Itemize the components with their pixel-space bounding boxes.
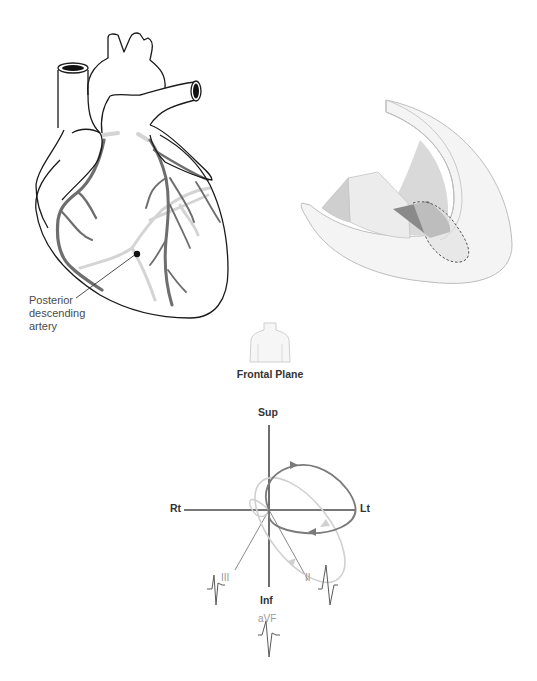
ecg-lead-avf-icon bbox=[258, 621, 280, 657]
pda-marker-dot bbox=[134, 251, 140, 257]
lead-ii-axis bbox=[269, 510, 308, 580]
lead-label-ii: II bbox=[305, 572, 311, 583]
pda-line-1: Posterior bbox=[29, 294, 109, 307]
ventricle-cutaway bbox=[280, 60, 537, 310]
svc-lumen bbox=[62, 65, 84, 71]
torso-figure bbox=[248, 320, 292, 364]
septum-block bbox=[348, 172, 410, 238]
normal-loop-arrow-bottom bbox=[308, 528, 316, 536]
pda-annotation: Posterior descending artery bbox=[29, 294, 109, 333]
heart-drawing bbox=[0, 0, 270, 330]
axis-label-left: Lt bbox=[360, 502, 370, 514]
pda-line-3: artery bbox=[29, 320, 109, 333]
vectorcardiogram: Sup Rt Lt Inf III II aVF bbox=[150, 395, 410, 675]
lead-label-iii: III bbox=[221, 572, 229, 583]
axis-label-inferior: Inf bbox=[260, 594, 273, 606]
abnormal-loop bbox=[238, 463, 362, 598]
lead-iii-axis bbox=[235, 510, 269, 570]
ventricle-section-drawing bbox=[280, 60, 537, 310]
abnormal-loop-arrow-2 bbox=[288, 558, 296, 566]
lead-label-avf: aVF bbox=[258, 613, 276, 624]
abnormal-loop-arrow-1 bbox=[320, 519, 330, 527]
frontal-plane-title: Frontal Plane bbox=[230, 368, 310, 380]
septum-side bbox=[322, 178, 350, 222]
normal-loop-arrow-top bbox=[290, 461, 298, 469]
torso-icon bbox=[248, 320, 292, 364]
ecg-lead-ii-icon bbox=[318, 565, 338, 605]
axis-label-right: Rt bbox=[170, 502, 181, 514]
coronary-arteries bbox=[58, 140, 220, 305]
aorta-lumen bbox=[193, 84, 199, 99]
heart-illustration bbox=[0, 0, 270, 330]
vector-loop-plot bbox=[150, 395, 410, 675]
pda-line-2: descending bbox=[29, 307, 109, 320]
normal-loop bbox=[266, 465, 356, 533]
axis-label-superior: Sup bbox=[258, 406, 278, 418]
